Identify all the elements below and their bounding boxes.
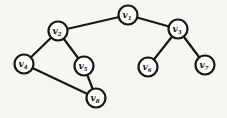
graph-edge-v1-v2 <box>58 15 128 31</box>
graph-canvas: v1v2v3v4v5v6v7v8 <box>0 0 227 118</box>
graph-node-v5: v5 <box>75 57 94 76</box>
graph-node-v8: v8 <box>87 89 106 108</box>
graph-figure: v1v2v3v4v5v6v7v8 <box>0 0 227 118</box>
graph-node-v6: v6 <box>139 58 158 77</box>
graph-node-v1: v1 <box>119 6 138 25</box>
graph-node-v3: v3 <box>169 20 188 39</box>
graph-node-v2: v2 <box>49 22 68 41</box>
graph-node-v4: v4 <box>15 55 34 74</box>
graph-node-v7: v7 <box>196 56 215 75</box>
